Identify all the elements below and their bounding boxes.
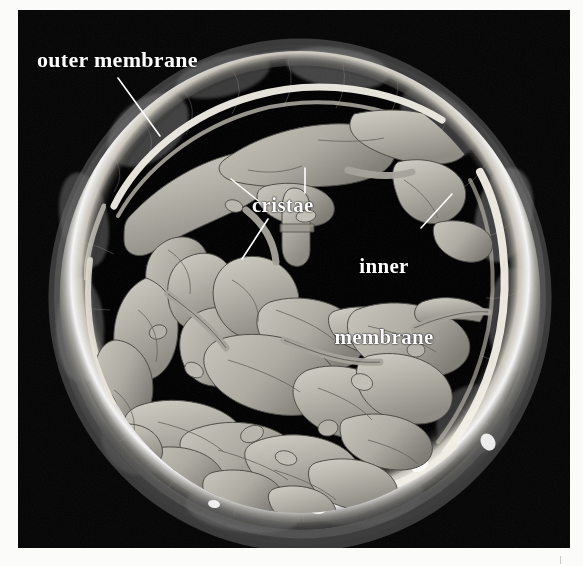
label-outer-membrane: outer membrane (37, 48, 198, 73)
label-inner-membrane-line1: inner (319, 255, 449, 279)
bottom-tick-mark (560, 556, 561, 564)
micrograph-panel (18, 10, 570, 548)
figure-container: outer membrane cristae inner membrane (0, 0, 583, 566)
film-grain-overlay (18, 10, 570, 548)
mitochondrion-rendering (18, 10, 570, 548)
label-cristae: cristae (252, 194, 314, 218)
label-inner-membrane-line2: membrane (319, 326, 449, 350)
label-inner-membrane: inner membrane (319, 208, 449, 396)
